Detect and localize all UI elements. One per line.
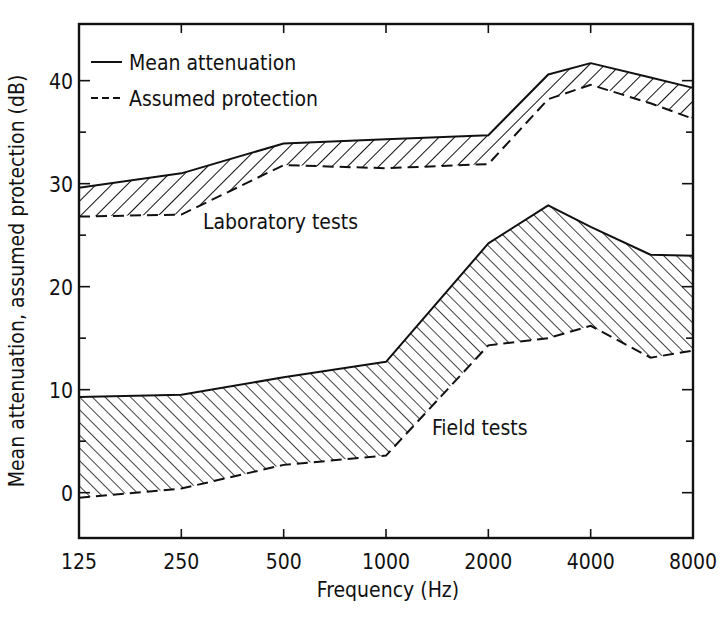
- x-tick-label: 250: [163, 550, 199, 574]
- y-tick-label: 0: [61, 482, 73, 506]
- x-tick-label: 2000: [464, 550, 512, 574]
- annotation-field-tests: Field tests: [432, 416, 528, 440]
- y-tick-label: 20: [49, 276, 73, 300]
- legend-label-mean: Mean attenuation: [129, 51, 296, 75]
- y-tick-label: 40: [49, 70, 73, 94]
- attenuation-chart: 1252505001000200040008000 010203040 Mean…: [0, 0, 725, 623]
- x-tick-label: 1000: [362, 550, 410, 574]
- legend-label-assumed: Assumed protection: [129, 87, 318, 111]
- x-tick-label: 8000: [669, 550, 717, 574]
- field-tests-band: [79, 205, 693, 498]
- y-axis-label: Mean attenuation, assumed protection (dB…: [5, 75, 29, 488]
- y-tick-label: 10: [49, 379, 73, 403]
- x-tick-label: 4000: [567, 550, 615, 574]
- x-axis-label: Frequency (Hz): [317, 578, 459, 602]
- y-tick-label: 30: [49, 173, 73, 197]
- x-tick-label: 500: [266, 550, 302, 574]
- legend: Mean attenuation Assumed protection: [91, 51, 318, 111]
- bands-layer: [79, 63, 693, 498]
- annotation-laboratory-tests: Laboratory tests: [203, 210, 358, 234]
- x-tick-label: 125: [61, 550, 97, 574]
